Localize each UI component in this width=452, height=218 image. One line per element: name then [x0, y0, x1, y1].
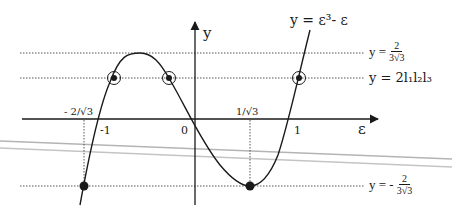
min-level-numerator: 2	[399, 173, 410, 185]
tick-one: 1	[294, 124, 301, 137]
min-level-label: y = - 2 3√3	[369, 173, 412, 196]
scan-artifact-lines	[0, 141, 452, 167]
tick-zero: 0	[181, 124, 188, 137]
max-level-numerator: 2	[391, 40, 402, 52]
filled-point-left	[80, 182, 89, 191]
max-level-label: y = 2 3√3	[369, 40, 405, 63]
x-axis-label: ε	[358, 120, 366, 138]
curve-label: y = ε³- ε	[289, 12, 348, 28]
min-level-denominator: 3√3	[397, 185, 413, 196]
product-level-label: y = 2l₁l₂l₃	[368, 70, 432, 85]
tick-neg-two-root3: - 2/√3	[64, 106, 93, 117]
tick-neg-one: -1	[100, 124, 111, 137]
filled-point-right	[246, 182, 255, 191]
y-axis-label: y	[202, 24, 212, 42]
tick-one-root3: 1/√3	[236, 106, 258, 117]
max-level-denominator: 3√3	[389, 52, 405, 63]
min-level-prefix: y = -	[369, 177, 394, 193]
max-level-prefix: y =	[369, 44, 386, 60]
